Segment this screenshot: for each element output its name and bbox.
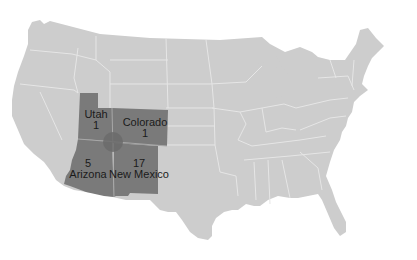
- us-landmass: [12, 20, 384, 240]
- label-arizona-name: Arizona: [69, 169, 106, 180]
- four-corners-marker: [103, 132, 123, 152]
- us-map: [0, 0, 417, 260]
- label-utah-value: 1: [84, 120, 107, 131]
- label-colorado-value: 1: [123, 128, 168, 139]
- label-new-mexico: 17 New Mexico: [109, 158, 169, 180]
- label-utah: Utah 1: [84, 109, 107, 131]
- label-new-mexico-name: New Mexico: [109, 169, 169, 180]
- label-colorado: Colorado 1: [123, 117, 168, 139]
- label-arizona: 5 Arizona: [69, 158, 106, 180]
